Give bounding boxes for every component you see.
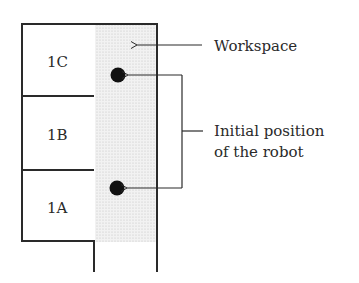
robot-marker-1a (110, 181, 125, 196)
workspace-area (95, 25, 156, 242)
initial-position-label-line2: of the robot (214, 143, 304, 161)
initial-position-label-line1: Initial position (214, 122, 325, 140)
room-label-1a: 1A (47, 199, 68, 217)
room-label-1b: 1B (47, 126, 68, 144)
workspace-label: Workspace (214, 37, 297, 55)
robot-marker-1c (111, 68, 126, 83)
room-label-1c: 1C (47, 53, 68, 71)
diagram-canvas: 1C 1B 1A Workspace Initial position of t… (0, 0, 359, 283)
